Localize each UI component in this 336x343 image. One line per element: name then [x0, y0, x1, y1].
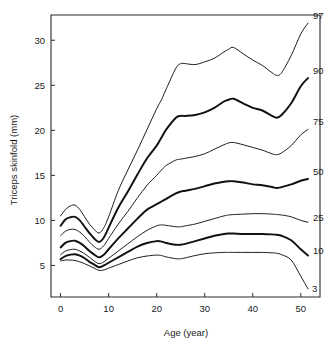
percentile-curve-50 [61, 179, 308, 257]
x-tick-label: 50 [295, 303, 306, 314]
y-tick-label: 10 [34, 215, 45, 226]
x-tick-label: 0 [58, 303, 63, 314]
percentile-curve-10 [61, 233, 308, 267]
plot-frame [51, 15, 320, 297]
triceps-skinfold-percentile-chart: 51015202530 01020304050 9790755025103 Ag… [0, 0, 336, 343]
chart-canvas: 51015202530 01020304050 9790755025103 Ag… [0, 0, 336, 343]
percentile-label-25: 25 [313, 212, 324, 223]
x-axis-title: Age (year) [164, 327, 208, 338]
percentile-label-97: 97 [313, 10, 324, 21]
percentile-label-75: 75 [313, 116, 324, 127]
percentile-curve-labels: 9790755025103 [312, 10, 324, 294]
x-tick-label: 10 [103, 303, 114, 314]
x-axis-ticks: 01020304050 [58, 293, 306, 314]
percentile-label-10: 10 [313, 245, 324, 256]
x-tick-label: 30 [199, 303, 210, 314]
percentile-label-90: 90 [313, 65, 324, 76]
y-tick-label: 30 [34, 35, 45, 46]
y-tick-label: 25 [34, 80, 45, 91]
x-tick-label: 40 [247, 303, 258, 314]
y-tick-label: 20 [34, 125, 45, 136]
x-tick-label: 20 [151, 303, 162, 314]
y-axis-title: Triceps skinfold (mm) [8, 115, 19, 205]
percentile-curves [61, 23, 308, 289]
percentile-curve-75 [61, 129, 308, 249]
percentile-curve-97 [61, 23, 308, 233]
percentile-curve-90 [61, 78, 308, 242]
percentile-label-3: 3 [312, 283, 317, 294]
plot-frame-border [51, 15, 320, 297]
y-tick-label: 15 [34, 170, 45, 181]
y-tick-label: 5 [40, 260, 45, 271]
y-axis-ticks: 51015202530 [34, 35, 55, 271]
percentile-label-50: 50 [313, 166, 324, 177]
